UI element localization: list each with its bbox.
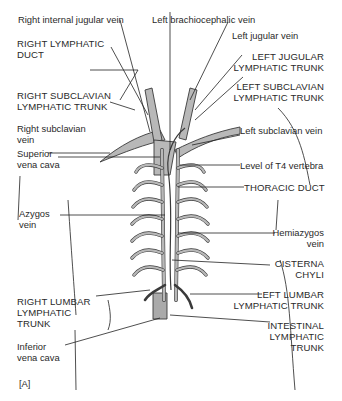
label-superior-vena-cava-1: Superior <box>17 148 52 159</box>
label-right-subclavian-trunk-1: RIGHT SUBCLAVIAN <box>17 90 111 101</box>
label-ivc-2: vena cava <box>17 352 60 363</box>
label-left-brachiocephalic-vein: Left brachiocephalic vein <box>152 14 255 25</box>
label-azygos-1: Azygos <box>19 208 50 219</box>
label-ivc-1: Inferior <box>17 341 46 352</box>
label-left-subclavian-trunk-2: LYMPHATIC TRUNK <box>233 92 324 103</box>
label-right-subclavian-trunk-2: LYMPHATIC TRUNK <box>17 101 108 112</box>
label-left-jugular-trunk-1: LEFT JUGULAR <box>252 51 324 62</box>
label-right-subclavian-vein-2: vein <box>17 134 34 145</box>
label-left-jugular-vein: Left jugular vein <box>232 30 298 41</box>
label-superior-vena-cava-2: vena cava <box>17 159 60 170</box>
label-hemiazygos-2: vein <box>307 238 324 249</box>
label-left-subclavian-trunk-1: LEFT SUBCLAVIAN <box>236 81 324 92</box>
label-left-subclavian-vein: Left subclavian vein <box>240 125 322 136</box>
label-right-lymphatic-duct-1: RIGHT LYMPHATIC <box>17 38 104 49</box>
label-left-jugular-trunk-2: LYMPHATIC TRUNK <box>233 62 324 73</box>
left-jugular-vein <box>179 88 197 140</box>
label-intestinal-1: INTESTINAL <box>268 320 324 331</box>
label-cisterna-2: CHYLI <box>295 269 324 280</box>
label-right-internal-jugular-vein: Right internal jugular vein <box>18 14 124 25</box>
label-azygos-2: vein <box>19 219 36 230</box>
label-right-lumbar-1: RIGHT LUMBAR <box>17 296 91 307</box>
label-left-lumbar-1: LEFT LUMBAR <box>257 289 324 300</box>
label-cisterna-1: CISTERNA <box>275 258 324 269</box>
label-right-lumbar-2: LYMPHATIC <box>17 307 71 318</box>
label-intestinal-3: TRUNK <box>290 342 324 353</box>
label-thoracic-duct: THORACIC DUCT <box>244 182 325 193</box>
label-right-subclavian-vein-1: Right subclavian <box>17 123 86 134</box>
label-level-t4: Level of T4 vertebra <box>240 160 323 171</box>
label-hemiazygos-1: Hemiazygos <box>272 227 324 238</box>
label-left-lumbar-2: LYMPHATIC TRUNK <box>233 300 324 311</box>
label-right-lumbar-3: TRUNK <box>17 318 51 329</box>
figure-tag: [A] <box>19 378 30 389</box>
label-intestinal-2: LYMPHATIC <box>270 331 324 342</box>
superior-vena-cava <box>154 140 176 175</box>
label-right-lymphatic-duct-2: DUCT <box>17 49 44 60</box>
